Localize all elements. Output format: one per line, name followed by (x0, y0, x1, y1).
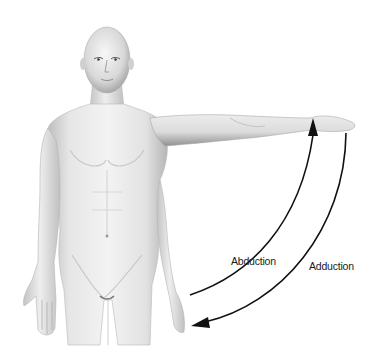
abduction-arrow (190, 118, 318, 295)
abduction-label: Abduction (231, 255, 276, 267)
figure-head (80, 27, 134, 93)
figure-right-forearm (157, 180, 184, 333)
anatomy-diagram (0, 0, 381, 363)
adduction-label: Adduction (309, 260, 354, 272)
figure-left-arm (23, 128, 60, 335)
adduction-arrow (191, 133, 346, 328)
figure-body (47, 85, 167, 345)
figure-raised-arm (150, 115, 355, 146)
